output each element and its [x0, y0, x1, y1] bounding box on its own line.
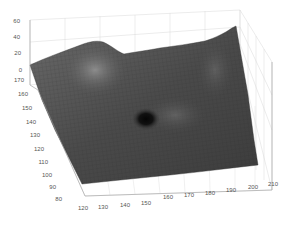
- y-tick: 100: [42, 172, 53, 178]
- x-tick: 120: [78, 205, 89, 211]
- x-tick: 190: [226, 187, 237, 193]
- y-tick: 110: [38, 159, 48, 165]
- y-tick: 140: [26, 119, 37, 125]
- y-tick: 170: [14, 77, 25, 83]
- z-tick: 0: [19, 67, 23, 73]
- x-tick: 200: [248, 184, 259, 190]
- y-tick: 150: [22, 105, 33, 111]
- x-tick: 160: [163, 194, 174, 200]
- y-tick: 130: [30, 132, 41, 138]
- z-tick: 40: [13, 34, 20, 40]
- central-pit: [132, 108, 160, 130]
- x-tick: 130: [98, 204, 109, 210]
- z-tick: 20: [14, 50, 21, 56]
- surface-plot: 60 40 20 0 170 160 150 140 130 120 110 1…: [0, 0, 299, 226]
- z-axis: 60 40 20 0: [13, 18, 22, 73]
- x-tick: 150: [141, 200, 152, 206]
- y-tick: 120: [34, 146, 45, 152]
- y-tick: 90: [49, 184, 56, 190]
- surface: [30, 26, 258, 184]
- y-tick: 160: [18, 91, 29, 97]
- x-tick: 140: [120, 202, 131, 208]
- ridge-highlight: [63, 44, 127, 96]
- x-axis: 120 130 140 150 160 170 180 190 200 210: [78, 181, 279, 211]
- x-tick: 180: [205, 190, 216, 196]
- z-tick: 60: [13, 18, 20, 24]
- x-tick: 210: [268, 181, 279, 187]
- right-highlight: [197, 42, 233, 98]
- y-tick: 80: [55, 196, 62, 202]
- x-tick: 170: [184, 192, 195, 198]
